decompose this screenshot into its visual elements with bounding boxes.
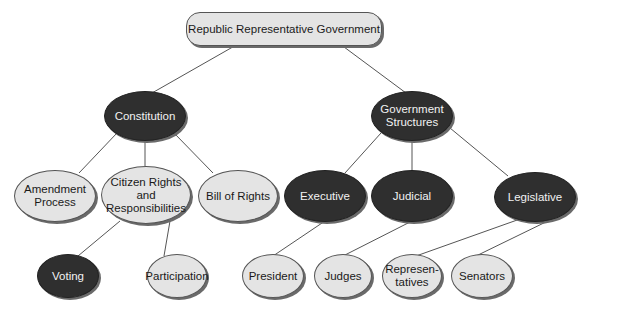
- node-judicial: Judicial: [371, 170, 453, 222]
- node-senators: Senators: [451, 254, 513, 298]
- node-constitution: Constitution: [104, 91, 186, 141]
- node-government-structures: Government Structures: [371, 91, 453, 141]
- node-participation: Participation: [147, 254, 207, 298]
- node-legislative: Legislative: [494, 172, 576, 222]
- node-root: Republic Representative Government: [186, 12, 382, 46]
- node-amendment-process: Amendment Process: [14, 170, 96, 222]
- node-representatives: Represen- tatives: [382, 254, 442, 298]
- node-voting: Voting: [37, 254, 99, 298]
- node-executive: Executive: [284, 170, 366, 222]
- node-bill-of-rights: Bill of Rights: [198, 170, 278, 222]
- node-citizen-rights: Citizen Rights and Responsibilities: [101, 166, 191, 224]
- node-judges: Judges: [314, 254, 372, 298]
- node-president: President: [242, 254, 304, 298]
